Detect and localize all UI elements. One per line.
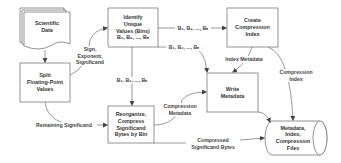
edge-identify-to-write (158, 47, 207, 72)
edge-label-reorganize-to-write: Compression Metadata (161, 103, 199, 116)
edge-label-reorganize-to-storage: Compressed Significand Bytes (186, 137, 240, 150)
edge-label-split-to-reorganize: Remaining Significand (31, 122, 97, 129)
write-metadata-node: Write Metadata (207, 73, 258, 112)
edge-index-to-storage (268, 47, 293, 120)
edge-label-identify-to-reorganize: B₁, B₂, ..., Bₙ (114, 77, 150, 84)
edge-label-identify-to-index: B₁, B₂, ..., Bₙ (175, 25, 211, 32)
reorganize-node: Reorganize, Compress Significand Bytes b… (108, 106, 154, 143)
create-index-node: Create Compression Index (227, 8, 278, 47)
split-node: Split Floating-Point Values (20, 63, 70, 102)
edge-label-identify-to-write: B₁, B₂, ..., Bₙ (166, 44, 202, 51)
storage-node: Metadata, Index, Compression Files (266, 121, 320, 155)
edge-label-split-to-identify: Sign, Exponent, Significand (72, 46, 108, 66)
edge-label-index-to-write: Index Metadata (222, 56, 266, 63)
identify-node: Identify Unique Values (Bins) B₁, B₂, ..… (108, 8, 158, 47)
edge-label-index-to-storage: Compression Index (276, 69, 316, 82)
scientific-data-node: Scientific Data (24, 14, 70, 40)
